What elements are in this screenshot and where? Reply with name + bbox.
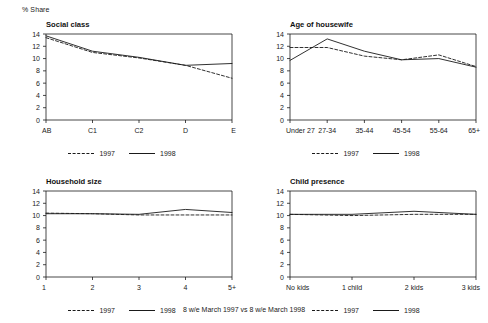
y-axis-unit-label: % Share — [22, 6, 50, 13]
legend-label-1998: 1998 — [160, 150, 176, 157]
svg-text:2: 2 — [36, 104, 40, 111]
svg-text:55-64: 55-64 — [430, 127, 448, 134]
svg-text:35-44: 35-44 — [355, 127, 373, 134]
svg-text:0: 0 — [280, 274, 284, 281]
svg-text:3 kids: 3 kids — [462, 284, 481, 291]
chart-panel-social-class: Social class 02468101214ABC1C2DE 1997 19… — [0, 16, 244, 171]
svg-text:4: 4 — [280, 92, 284, 99]
svg-text:4: 4 — [36, 92, 40, 99]
svg-text:E: E — [231, 127, 236, 134]
svg-text:0: 0 — [280, 117, 284, 124]
svg-text:14: 14 — [276, 188, 284, 195]
svg-text:2 kids: 2 kids — [405, 284, 424, 291]
svg-text:27-34: 27-34 — [318, 127, 336, 134]
svg-text:14: 14 — [276, 31, 284, 38]
svg-text:1 child: 1 child — [342, 284, 362, 291]
svg-text:10: 10 — [276, 55, 284, 62]
svg-text:6: 6 — [36, 80, 40, 87]
chart-page: % Share Social class 02468101214ABC1C2DE… — [0, 0, 488, 323]
legend-key-solid-icon — [129, 153, 155, 154]
plot-area-child-presence: 02468101214No kids1 child2 kids3 kids — [244, 173, 488, 307]
svg-text:2: 2 — [280, 104, 284, 111]
svg-text:12: 12 — [276, 43, 284, 50]
svg-text:14: 14 — [32, 188, 40, 195]
plot-area-age-of-housewife: 02468101214Under 2727-3435-4445-5455-646… — [244, 16, 488, 150]
svg-text:Under 27: Under 27 — [286, 127, 315, 134]
svg-text:1: 1 — [42, 284, 46, 291]
svg-text:8: 8 — [280, 224, 284, 231]
svg-text:14: 14 — [32, 31, 40, 38]
legend-social-class: 1997 1998 — [0, 150, 244, 157]
svg-text:2: 2 — [36, 261, 40, 268]
legend-label-1997: 1997 — [343, 150, 359, 157]
legend-label-1997: 1997 — [99, 150, 115, 157]
svg-text:C2: C2 — [135, 127, 144, 134]
svg-text:10: 10 — [32, 55, 40, 62]
svg-text:6: 6 — [36, 237, 40, 244]
svg-text:12: 12 — [32, 200, 40, 207]
svg-text:0: 0 — [36, 117, 40, 124]
svg-text:0: 0 — [36, 274, 40, 281]
svg-text:4: 4 — [36, 249, 40, 256]
svg-text:65+: 65+ — [468, 127, 480, 134]
legend-key-dashed-icon — [312, 153, 338, 154]
legend-item-1998: 1998 — [373, 150, 420, 157]
svg-text:2: 2 — [280, 261, 284, 268]
legend-item-1997: 1997 — [68, 150, 115, 157]
legend-key-solid-icon — [373, 153, 399, 154]
svg-text:12: 12 — [32, 43, 40, 50]
plot-area-household-size: 0246810121412345+ — [0, 173, 244, 307]
svg-text:8: 8 — [280, 67, 284, 74]
svg-text:4: 4 — [184, 284, 188, 291]
legend-key-dashed-icon — [68, 153, 94, 154]
svg-text:6: 6 — [280, 80, 284, 87]
svg-text:4: 4 — [280, 249, 284, 256]
svg-text:No kids: No kids — [286, 284, 310, 291]
svg-text:6: 6 — [280, 237, 284, 244]
chart-panel-child-presence: Child presence 02468101214No kids1 child… — [244, 173, 488, 323]
legend-age-of-housewife: 1997 1998 — [244, 150, 488, 157]
svg-text:2: 2 — [91, 284, 95, 291]
legend-label-1998: 1998 — [404, 150, 420, 157]
chart-panel-household-size: Household size 0246810121412345+ 1997 19… — [0, 173, 244, 323]
svg-text:45-54: 45-54 — [393, 127, 411, 134]
svg-text:8: 8 — [36, 67, 40, 74]
svg-text:C1: C1 — [88, 127, 97, 134]
svg-text:10: 10 — [32, 212, 40, 219]
svg-text:AB: AB — [42, 127, 52, 134]
svg-text:D: D — [183, 127, 188, 134]
svg-text:5+: 5+ — [228, 284, 236, 291]
chart-panel-age-of-housewife: Age of housewife 02468101214Under 2727-3… — [244, 16, 488, 171]
legend-item-1998: 1998 — [129, 150, 176, 157]
svg-text:8: 8 — [36, 224, 40, 231]
svg-text:3: 3 — [137, 284, 141, 291]
svg-text:10: 10 — [276, 212, 284, 219]
legend-item-1997: 1997 — [312, 150, 359, 157]
svg-text:12: 12 — [276, 200, 284, 207]
plot-area-social-class: 02468101214ABC1C2DE — [0, 16, 244, 150]
chart-footnote: 8 w/e March 1997 vs 8 w/e March 1998 — [0, 306, 488, 313]
